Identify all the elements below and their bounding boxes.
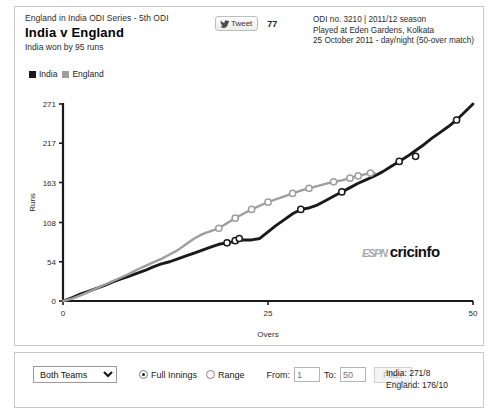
svg-text:25: 25 <box>264 309 273 318</box>
svg-text:54: 54 <box>47 258 56 267</box>
chart-controls-panel: Both TeamsIndiaEngland Full Innings Rang… <box>14 352 484 408</box>
from-label: From: <box>267 370 291 380</box>
series-name: England in India ODI Series - 5th ODI <box>25 13 225 24</box>
controls-row: Both TeamsIndiaEngland Full Innings Rang… <box>33 366 412 383</box>
page-title: India v England <box>25 25 225 41</box>
radio-full-innings[interactable]: Full Innings <box>139 370 197 380</box>
tweet-button[interactable]: Tweet <box>215 16 258 31</box>
espn-wordmark: ESPN <box>362 247 387 259</box>
legend-swatch-india <box>29 71 36 78</box>
svg-text:Overs: Overs <box>257 330 278 339</box>
svg-text:108: 108 <box>43 219 57 228</box>
svg-text:271: 271 <box>43 100 57 109</box>
svg-text:217: 217 <box>43 139 57 148</box>
legend-label-india: India <box>39 69 57 79</box>
radio-range[interactable]: Range <box>206 370 245 380</box>
legend-label-england: England <box>72 69 103 79</box>
worm-chart-svg[interactable]: 05410816321727102550OversRuns <box>15 83 485 345</box>
team-select[interactable]: Both TeamsIndiaEngland <box>33 366 117 383</box>
svg-text:0: 0 <box>52 297 57 306</box>
chart-legend: India England <box>29 69 104 79</box>
svg-text:163: 163 <box>43 179 57 188</box>
legend-item-india[interactable]: India <box>29 69 57 79</box>
radio-range-indicator[interactable] <box>206 370 215 379</box>
match-info-line-2: Played at Eden Gardens, Kolkata <box>313 26 474 37</box>
innings-mode-group: Full Innings Range <box>139 370 245 380</box>
svg-text:Runs: Runs <box>28 193 37 212</box>
espncricinfo-logo: ESPN cricinfo <box>362 243 440 260</box>
score-india: India: 271/8 <box>386 368 448 380</box>
match-result: India won by 95 runs <box>25 42 225 53</box>
innings-scores: India: 271/8 England: 176/10 <box>386 368 448 391</box>
to-label: To: <box>324 370 336 380</box>
match-header: England in India ODI Series - 5th ODI In… <box>25 13 225 53</box>
radio-range-label: Range <box>218 370 245 380</box>
twitter-bird-icon <box>220 20 229 28</box>
chart-panel: England in India ODI Series - 5th ODI In… <box>14 6 484 346</box>
legend-swatch-england <box>62 71 69 78</box>
tweet-button-label: Tweet <box>231 19 252 28</box>
legend-item-england[interactable]: England <box>62 69 103 79</box>
svg-text:0: 0 <box>61 309 66 318</box>
tweet-count: 77 <box>267 19 277 29</box>
worm-chart: 05410816321727102550OversRuns <box>15 83 485 345</box>
cricinfo-wordmark: cricinfo <box>390 243 440 260</box>
from-input[interactable] <box>294 367 320 382</box>
match-info-line-1: ODI no. 3210 | 2011/12 season <box>313 15 474 26</box>
score-england: England: 176/10 <box>386 380 448 392</box>
share-group: Tweet 77 <box>215 16 277 31</box>
radio-full-innings-indicator[interactable] <box>139 370 148 379</box>
match-info-block: ODI no. 3210 | 2011/12 season Played at … <box>313 15 474 47</box>
match-info-line-3: 25 October 2011 - day/night (50-over mat… <box>313 36 474 47</box>
cricinfo-worm-chart-widget: England in India ODI Series - 5th ODI In… <box>0 0 497 419</box>
radio-full-innings-label: Full Innings <box>151 370 197 380</box>
svg-text:50: 50 <box>469 309 478 318</box>
to-input[interactable] <box>340 367 366 382</box>
